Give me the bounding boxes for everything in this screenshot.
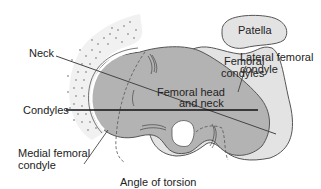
label-patella: Patella xyxy=(238,24,272,36)
label-neck: Neck xyxy=(29,47,54,59)
label-lateral-condyle-line1: Lateral femoral xyxy=(240,51,313,63)
diagram-caption: Angle of torsion xyxy=(120,176,196,188)
label-condyles: Condyles xyxy=(23,104,69,116)
label-medial-condyle-line2: condyle xyxy=(18,159,56,171)
label-femoral-head-line2: and neck xyxy=(179,97,224,109)
intercondylar-notch xyxy=(172,121,194,147)
label-lateral-condyle-line2: condyle xyxy=(240,63,278,75)
label-medial-condyle-line1: Medial femoral xyxy=(18,147,90,159)
angle-of-torsion-diagram: Patella Femoral condyles Lateral femoral… xyxy=(0,0,321,189)
